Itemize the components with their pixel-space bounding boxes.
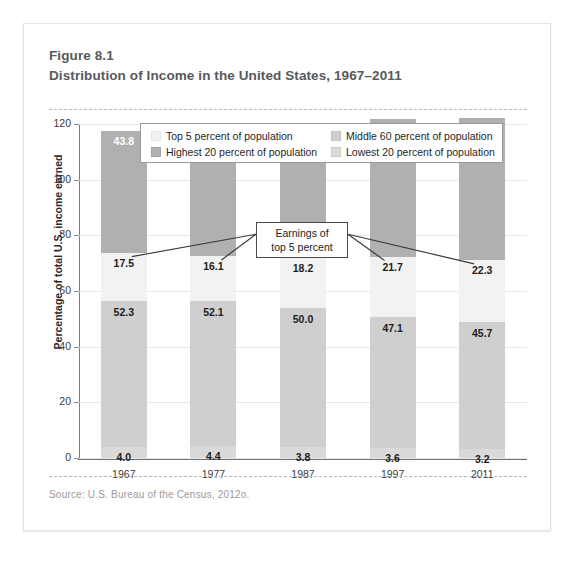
annotation-line-2: top 5 percent: [271, 240, 332, 254]
x-tick-label: 1987: [263, 468, 343, 480]
chart-plot-area: Percentage of total U.S. income earned 0…: [24, 24, 551, 531]
y-tick-mark: [74, 291, 79, 292]
bar-value-label: 21.7: [370, 261, 416, 273]
bar-value-label: 47.1: [370, 322, 416, 334]
legend-item-top5: Top 5 percent of population: [151, 130, 293, 142]
bar-value-label: 45.7: [459, 327, 505, 339]
y-tick-label: 40: [31, 340, 71, 352]
x-tick-label: 1977: [173, 468, 253, 480]
y-axis-title: Percentage of total U.S. income earned: [52, 132, 64, 372]
bar-segment[interactable]: [101, 301, 147, 447]
bar-group[interactable]: 3.647.121.749.4: [370, 124, 416, 458]
y-tick-mark: [74, 458, 79, 459]
bar-segment[interactable]: [370, 317, 416, 448]
y-tick-mark: [74, 402, 79, 403]
bar-value-label: 17.5: [101, 257, 147, 269]
bar-value-label: 4.4: [190, 450, 236, 462]
legend-label: Top 5 percent of population: [166, 130, 293, 142]
bar-value-label: 3.6: [370, 452, 416, 464]
legend-label: Middle 60 percent of population: [346, 130, 493, 142]
legend-label: Lowest 20 percent of population: [346, 146, 495, 158]
bar-segment[interactable]: [459, 322, 505, 449]
legend-label: Highest 20 percent of population: [166, 146, 317, 158]
legend-item-highest20: Highest 20 percent of population: [151, 146, 317, 158]
legend-swatch-icon: [151, 147, 161, 157]
x-tick-label: 2011: [442, 468, 522, 480]
legend-item-lowest20: Lowest 20 percent of population: [331, 146, 495, 158]
bar-segment[interactable]: [190, 301, 236, 446]
y-tick-mark: [74, 347, 79, 348]
bar-value-label: 16.1: [190, 260, 236, 272]
bar-group[interactable]: 4.452.116.143.6: [190, 124, 236, 458]
x-tick-label: 1997: [353, 468, 433, 480]
chart-legend: Top 5 percent of population Highest 20 p…: [140, 123, 503, 163]
legend-swatch-icon: [331, 147, 341, 157]
bar-group[interactable]: 3.850.018.246.2: [280, 124, 326, 458]
bar-group[interactable]: 3.245.722.351.1: [459, 124, 505, 458]
y-tick-label: 0: [31, 451, 71, 463]
bar-value-label: 3.2: [459, 453, 505, 465]
annotation-callout: Earnings of top 5 percent: [256, 222, 348, 258]
x-tick-label: 1967: [84, 468, 164, 480]
bar-value-label: 52.3: [101, 306, 147, 318]
y-tick-label: 60: [31, 284, 71, 296]
legend-item-middle60: Middle 60 percent of population: [331, 130, 493, 142]
legend-swatch-icon: [151, 131, 161, 141]
y-tick-label: 80: [31, 228, 71, 240]
bar-value-label: 18.2: [280, 262, 326, 274]
bar-value-label: 52.1: [190, 306, 236, 318]
source-note: Source: U.S. Bureau of the Census, 2012o…: [49, 489, 250, 500]
y-tick-mark: [74, 235, 79, 236]
bar-group[interactable]: 4.052.317.543.8: [101, 124, 147, 458]
y-tick-mark: [74, 124, 79, 125]
bar-value-label: 50.0: [280, 313, 326, 325]
y-tick-mark: [74, 180, 79, 181]
y-tick-label: 120: [31, 117, 71, 129]
plot-box: 020406080100120 4.052.317.543.84.452.116…: [79, 124, 527, 458]
bar-value-label: 22.3: [459, 264, 505, 276]
bar-value-label: 3.8: [280, 451, 326, 463]
annotation-line-1: Earnings of: [275, 226, 328, 240]
bar-segment[interactable]: [280, 308, 326, 447]
y-tick-label: 100: [31, 173, 71, 185]
legend-swatch-icon: [331, 131, 341, 141]
y-tick-label: 20: [31, 395, 71, 407]
bar-value-label: 4.0: [101, 451, 147, 463]
figure-card: Figure 8.1 Distribution of Income in the…: [23, 23, 551, 531]
divider-bottom: [49, 476, 527, 477]
